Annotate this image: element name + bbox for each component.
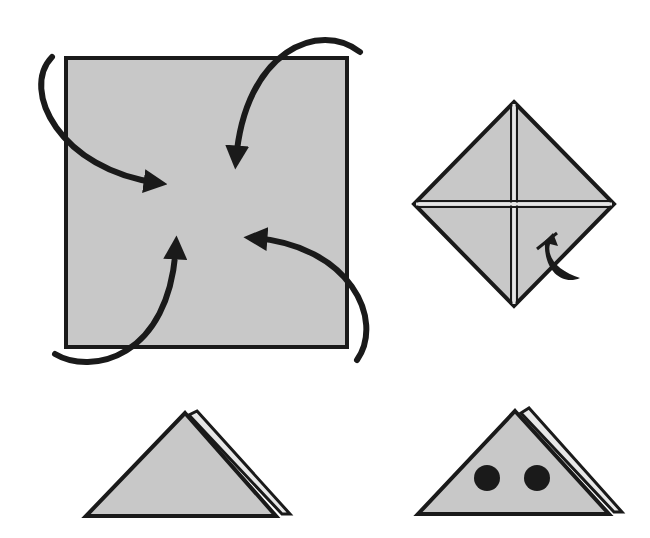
step-3-triangle bbox=[86, 411, 290, 516]
step-1-square bbox=[41, 40, 366, 362]
step-2-diamond bbox=[414, 102, 614, 306]
step-4-triangle-with-eyes bbox=[418, 408, 622, 514]
right-eye-icon bbox=[524, 465, 550, 491]
left-eye-icon bbox=[474, 465, 500, 491]
origami-diagram bbox=[0, 0, 650, 538]
